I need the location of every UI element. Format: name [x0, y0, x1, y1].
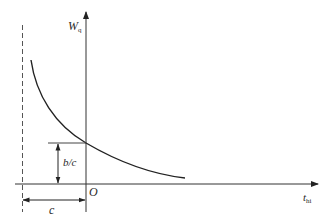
diagram-canvas: Wq thi O b/c c [0, 0, 329, 223]
origin-label: O [89, 186, 98, 198]
y-axis-label: Wq [68, 20, 82, 34]
y-axis-label-sub: q [78, 26, 82, 34]
curve [31, 60, 185, 178]
diagram-svg [0, 0, 329, 223]
offset-label: c [49, 204, 54, 216]
intercept-label: b/c [63, 157, 76, 168]
x-axis-label: thi [303, 192, 312, 205]
x-axis-label-sub: hi [306, 197, 311, 205]
y-axis-label-main: W [68, 19, 78, 33]
